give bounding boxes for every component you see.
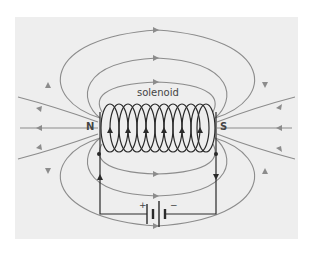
battery-minus-label: − <box>170 200 178 210</box>
solenoid-field-diagram <box>0 0 309 255</box>
circuit-wires <box>100 112 216 214</box>
current-up-arrow <box>97 174 103 180</box>
right-junction-dot <box>214 152 218 156</box>
left-junction-dot <box>97 152 101 156</box>
solenoid-coil <box>101 104 215 152</box>
north-pole-label: N <box>86 121 94 132</box>
battery-plus-label: + <box>139 200 147 210</box>
south-pole-label: S <box>220 121 227 132</box>
battery-icon <box>147 201 165 227</box>
solenoid-label: solenoid <box>137 87 179 98</box>
